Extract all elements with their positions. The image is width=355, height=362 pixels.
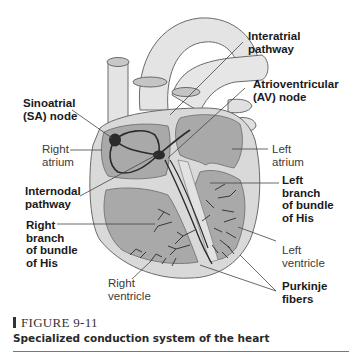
- label-left-branch-bundle-of-his: Left branch of bundle of His: [282, 174, 334, 224]
- label-right-branch-bundle-of-his: Right branch of bundle of His: [26, 219, 78, 269]
- label-right-atrium: Right atrium: [42, 143, 74, 168]
- label-left-atrium: Left atrium: [272, 143, 304, 168]
- figure-number-text: FIGURE 9-11: [21, 315, 98, 330]
- label-sa-node: Sinoatrial (SA) node: [23, 97, 77, 122]
- label-right-ventricle: Right ventricle: [108, 277, 151, 302]
- superior-vena-cava: [107, 58, 129, 126]
- label-internodal-pathway: Internodal pathway: [25, 185, 81, 210]
- figure-caption: Specialized conduction system of the hea…: [13, 332, 269, 344]
- label-purkinje-fibers: Purkinje fibers: [282, 280, 327, 305]
- pulmonary-vein: [228, 99, 252, 113]
- sa-node: [109, 134, 121, 147]
- caption-divider: [13, 351, 349, 352]
- av-node: [153, 151, 165, 160]
- figure-number: FIGURE 9-11: [13, 315, 98, 331]
- figure-marker: [13, 317, 16, 328]
- label-av-node: Atrioventricular (AV) node: [253, 78, 339, 103]
- vessel-opening: [133, 77, 167, 87]
- diagram-stage: Interatrial pathway Atrioventricular (AV…: [0, 0, 355, 362]
- label-interatrial-pathway: Interatrial pathway: [248, 30, 300, 55]
- label-left-ventricle: Left ventricle: [282, 244, 325, 269]
